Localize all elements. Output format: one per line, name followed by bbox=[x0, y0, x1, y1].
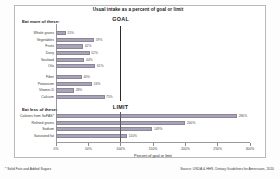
category-label: Seafood bbox=[0, 58, 54, 62]
bar-fruits bbox=[56, 44, 83, 48]
category-label: Whole grains bbox=[0, 31, 54, 35]
bar-value-label: 28% bbox=[76, 88, 83, 92]
bar-fiber bbox=[56, 75, 82, 79]
bar-value-label: 56% bbox=[94, 82, 101, 86]
footnote-text: * Solid Fats and Added Sugars bbox=[5, 167, 51, 171]
group-heading-eat-more: Eat more of these: bbox=[22, 19, 60, 24]
category-label: Fiber bbox=[0, 75, 54, 79]
limit-marker-label: LIMIT bbox=[109, 104, 133, 110]
x-axis-tick bbox=[250, 143, 251, 146]
bar-value-label: 40% bbox=[83, 75, 90, 79]
bar-potassium bbox=[56, 82, 92, 86]
bar-value-label: 52% bbox=[91, 51, 98, 55]
bar-oils bbox=[56, 64, 95, 68]
bar-vitamin-d bbox=[56, 88, 74, 92]
category-label: Calories from SoFAS* bbox=[0, 114, 54, 118]
x-axis-tick-label: 50% bbox=[79, 147, 97, 151]
category-label: Vitamin D bbox=[0, 88, 54, 92]
chart-figure: Usual intake as a percent of goal or lim… bbox=[0, 0, 280, 179]
x-axis-tick-label: 100% bbox=[112, 147, 130, 151]
x-axis-tick bbox=[185, 143, 186, 146]
bar-value-label: 15% bbox=[67, 31, 74, 35]
bar-value-label: 44% bbox=[86, 58, 93, 62]
category-label: Dairy bbox=[0, 51, 54, 55]
x-axis-tick-label: 200% bbox=[176, 147, 194, 151]
category-label: Oils bbox=[0, 64, 54, 68]
bar-value-label: 75% bbox=[106, 95, 113, 99]
bar-calories-from-sofas* bbox=[56, 114, 237, 118]
bar-seafood bbox=[56, 58, 84, 62]
bar-saturated-fat bbox=[56, 134, 127, 138]
bar-whole-grains bbox=[56, 31, 66, 35]
source-attribution: Source: USDA & HHS. Dietary Guidelines f… bbox=[180, 167, 274, 171]
bar-value-label: 280% bbox=[239, 114, 247, 118]
bar-vegetables bbox=[56, 38, 94, 42]
category-label: Fruits bbox=[0, 44, 54, 48]
goal-marker-label: GOAL bbox=[110, 16, 132, 22]
category-label: Saturated fat bbox=[0, 134, 54, 138]
bar-value-label: 42% bbox=[85, 44, 92, 48]
x-axis-tick bbox=[88, 143, 89, 146]
bar-dairy bbox=[56, 51, 90, 55]
limit-marker-line bbox=[120, 112, 121, 143]
x-axis-tick bbox=[217, 143, 218, 146]
bar-value-label: 110% bbox=[129, 134, 137, 138]
group-heading-eat-less: Eat less of these: bbox=[22, 107, 57, 112]
x-axis-tick-label: 300% bbox=[241, 147, 259, 151]
x-axis-tick bbox=[120, 143, 121, 146]
x-axis-tick bbox=[56, 143, 57, 146]
bar-calcium bbox=[56, 95, 105, 99]
category-label: Refined grains bbox=[0, 121, 54, 125]
bar-value-label: 200% bbox=[187, 121, 195, 125]
x-axis-tick-label: 250% bbox=[209, 147, 227, 151]
bar-value-label: 61% bbox=[97, 64, 104, 68]
x-axis-title: Percent of goal or limit bbox=[46, 154, 260, 158]
bar-value-label: 59% bbox=[96, 38, 103, 42]
bar-sodium bbox=[56, 127, 152, 131]
x-axis-tick-label: 0% bbox=[47, 147, 65, 151]
goal-marker-line bbox=[120, 26, 122, 101]
category-label: Potassium bbox=[0, 82, 54, 86]
x-axis-tick-label: 150% bbox=[144, 147, 162, 151]
bar-value-label: 149% bbox=[154, 127, 162, 131]
x-axis-tick bbox=[153, 143, 154, 146]
category-label: Sodium bbox=[0, 127, 54, 131]
chart-title: Usual intake as a percent of goal or lim… bbox=[58, 7, 218, 13]
category-label: Vegetables bbox=[0, 38, 54, 42]
category-label: Calcium bbox=[0, 95, 54, 99]
